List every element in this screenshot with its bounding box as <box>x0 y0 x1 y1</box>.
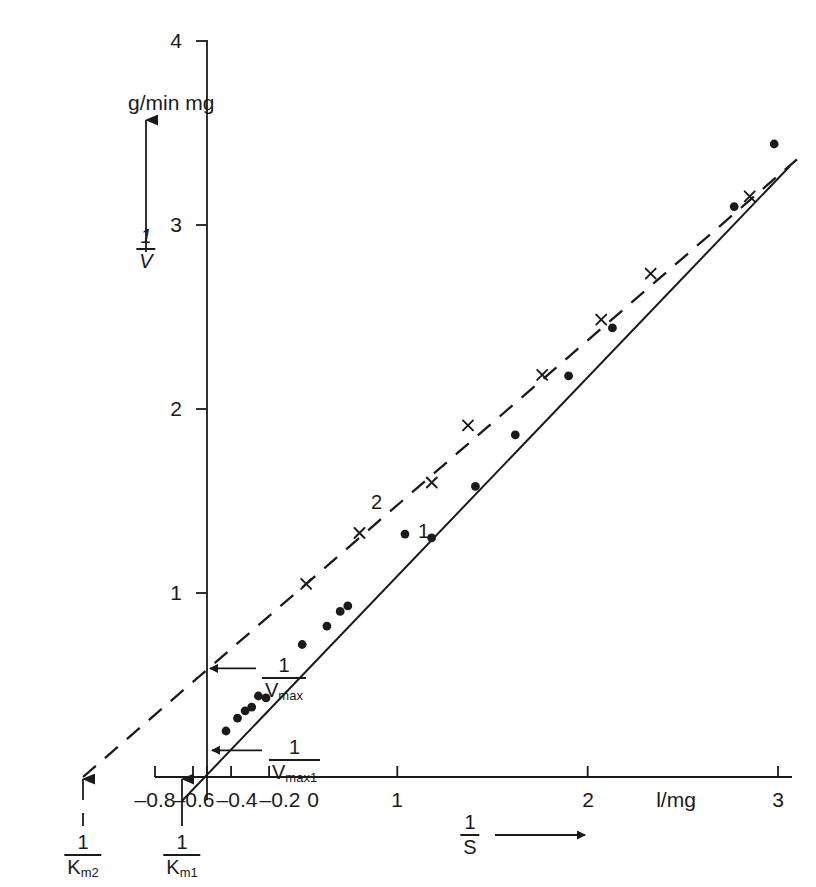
y-tick-label-3: 3 <box>170 214 182 235</box>
data-point <box>596 315 606 325</box>
annotation-km1-fraction: 1 Km1 <box>163 832 200 878</box>
data-point <box>646 269 656 279</box>
x-axis-label-numerator: 1 <box>460 812 479 833</box>
y-axis-ticks <box>196 41 207 593</box>
data-point <box>323 622 332 631</box>
data-point <box>511 430 520 439</box>
y-tick-label-4: 4 <box>170 30 182 51</box>
y-axis-label-denominator: V <box>136 251 155 272</box>
x-axis-label-fraction: 1 S <box>460 812 479 858</box>
x-tick-label-1: 1 <box>391 789 403 810</box>
x-tick-label-neg0_4: –0.4 <box>217 789 258 810</box>
y-axis-unit-label: g/min mg <box>128 92 214 113</box>
data-point <box>427 478 437 488</box>
annotation-km2-fraction: 1 Km2 <box>64 832 101 878</box>
x-axis-unit-label: l/mg <box>656 789 696 810</box>
vmax1-denominator-base: V <box>272 761 285 783</box>
km2-denominator-subscript: m2 <box>81 865 99 880</box>
data-point <box>355 528 365 538</box>
x-tick-label-0: 0 <box>307 789 319 810</box>
x-tick-label-2: 2 <box>582 789 594 810</box>
data-point <box>247 703 256 712</box>
data-point <box>770 140 779 149</box>
x-axis-ticks <box>155 766 778 777</box>
x-tick-label-neg0_6: –0.6 <box>174 789 215 810</box>
data-point <box>301 579 311 589</box>
data-point <box>233 714 242 723</box>
data-point <box>401 530 410 539</box>
chart-figure: 4 3 2 1 –0.8 –0.6 –0.4 –0.2 0 1 2 3 g/mi… <box>0 0 816 887</box>
data-point <box>564 372 573 381</box>
vmax-denominator-base: V <box>265 679 278 701</box>
vmax1-denominator-subscript: max1 <box>285 770 317 785</box>
vmax-denominator-subscript: max <box>278 688 303 703</box>
data-point <box>343 602 352 611</box>
km2-denominator-base: K <box>67 856 80 878</box>
x-tick-label-neg0_2: –0.2 <box>260 789 301 810</box>
series-2-fit-line <box>83 159 797 777</box>
y-tick-label-2: 2 <box>170 398 182 419</box>
data-point <box>463 420 473 430</box>
data-point <box>298 640 307 649</box>
vmax-numerator: 1 <box>262 655 306 676</box>
x-axis-label-denominator: S <box>460 837 479 858</box>
series-2-curve-label: 2 <box>371 492 382 512</box>
data-point <box>537 370 547 380</box>
data-point <box>471 482 480 491</box>
km1-denominator-base: K <box>166 856 179 878</box>
km1-denominator-subscript: m1 <box>180 865 198 880</box>
x-tick-label-3: 3 <box>772 789 784 810</box>
annotation-vmax1-fraction: 1 Vmax1 <box>269 737 320 783</box>
series-1-curve-label: 1 <box>418 521 429 541</box>
y-axis-label-numerator: 1 <box>136 226 155 247</box>
vmax1-denominator: Vmax1 <box>269 762 320 783</box>
series-1-points <box>222 140 779 736</box>
x-tick-label-neg0_8: –0.8 <box>135 789 176 810</box>
data-point <box>336 607 345 616</box>
lineweaver-burk-plot <box>0 0 816 887</box>
km1-numerator: 1 <box>163 832 200 853</box>
annotation-vmax-fraction: 1 Vmax <box>262 655 306 701</box>
vmax1-numerator: 1 <box>269 737 320 758</box>
data-point <box>222 727 231 736</box>
series-1-fit-line <box>182 166 790 801</box>
km1-denominator: Km1 <box>163 857 200 878</box>
km2-denominator: Km2 <box>64 857 101 878</box>
y-axis-label-fraction: 1 V <box>136 226 155 272</box>
vmax-denominator: Vmax <box>262 680 306 701</box>
data-point <box>730 202 739 211</box>
km2-numerator: 1 <box>64 832 101 853</box>
y-tick-label-1: 1 <box>170 582 182 603</box>
data-point <box>608 324 617 333</box>
